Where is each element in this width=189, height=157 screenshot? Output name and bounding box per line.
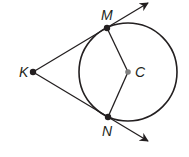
- ray-kn: [33, 72, 148, 141]
- point-m: [104, 25, 110, 31]
- label-m: M: [101, 7, 113, 23]
- point-c: [125, 69, 131, 75]
- label-c: C: [135, 64, 146, 80]
- radius-cm: [107, 28, 128, 72]
- label-k: K: [19, 64, 29, 80]
- point-n: [105, 114, 111, 120]
- ray-km: [33, 3, 148, 72]
- point-k: [30, 69, 36, 75]
- tangent-diagram: K M N C: [0, 0, 189, 157]
- radius-cn: [108, 72, 128, 117]
- label-n: N: [102, 123, 113, 139]
